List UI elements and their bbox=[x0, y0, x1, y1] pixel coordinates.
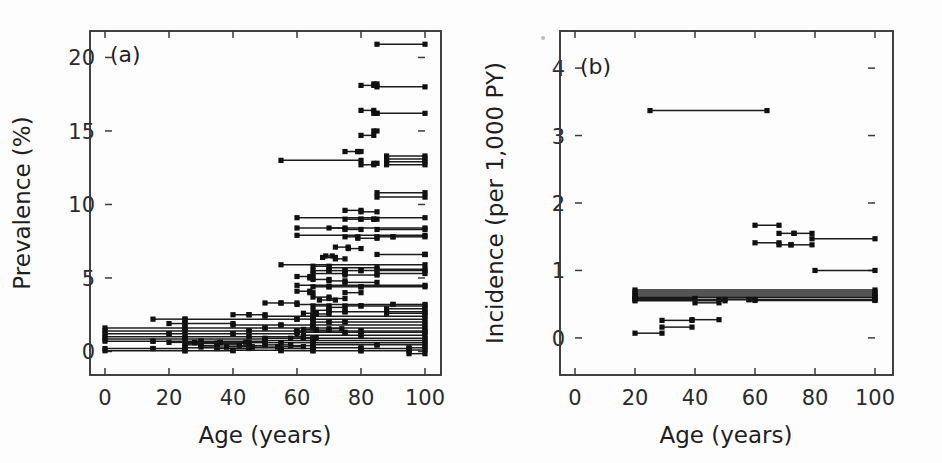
data-marker bbox=[776, 231, 781, 236]
y-tick-label: 20 bbox=[68, 46, 95, 70]
x-tick-label: 60 bbox=[284, 386, 311, 410]
data-marker bbox=[230, 331, 235, 336]
data-marker bbox=[294, 283, 299, 288]
data-marker bbox=[809, 231, 814, 236]
x-tick-label: 60 bbox=[742, 386, 769, 410]
data-marker bbox=[422, 227, 427, 232]
data-marker bbox=[776, 223, 781, 228]
data-marker bbox=[358, 284, 363, 289]
panel-b: 02040608010001234 (b) Age (years) Incide… bbox=[482, 31, 895, 448]
data-marker bbox=[288, 343, 293, 348]
panel-a-plot-frame bbox=[90, 31, 441, 375]
x-tick-label: 0 bbox=[98, 386, 111, 410]
data-marker bbox=[689, 325, 694, 330]
data-marker bbox=[342, 256, 347, 261]
data-marker bbox=[358, 303, 363, 308]
data-marker bbox=[294, 289, 299, 294]
data-marker bbox=[659, 325, 664, 330]
data-marker bbox=[314, 311, 319, 316]
data-marker bbox=[422, 84, 427, 89]
data-marker bbox=[333, 245, 338, 250]
data-marker bbox=[384, 162, 389, 167]
y-tick-label: 5 bbox=[82, 267, 95, 291]
data-marker bbox=[198, 344, 203, 349]
data-marker bbox=[659, 331, 664, 336]
data-marker bbox=[809, 236, 814, 241]
data-marker bbox=[342, 303, 347, 308]
data-marker bbox=[294, 302, 299, 307]
data-marker bbox=[192, 340, 197, 345]
data-marker bbox=[301, 311, 306, 316]
data-marker bbox=[422, 215, 427, 220]
data-marker bbox=[374, 227, 379, 232]
data-marker bbox=[764, 108, 769, 113]
panel-b-data-series bbox=[632, 108, 877, 336]
x-tick-label: 40 bbox=[220, 386, 247, 410]
data-marker bbox=[294, 274, 299, 279]
data-marker bbox=[310, 294, 315, 299]
y-tick-label: 1 bbox=[552, 259, 565, 283]
data-marker bbox=[358, 217, 363, 222]
y-tick-label: 2 bbox=[552, 192, 565, 216]
data-marker bbox=[342, 234, 347, 239]
data-marker bbox=[358, 209, 363, 214]
data-marker bbox=[250, 344, 255, 349]
data-marker bbox=[788, 242, 793, 247]
x-tick-label: 100 bbox=[405, 386, 445, 410]
data-marker bbox=[294, 317, 299, 322]
data-marker bbox=[358, 133, 363, 138]
data-marker bbox=[326, 278, 331, 283]
scan-speck bbox=[541, 36, 545, 40]
data-marker bbox=[716, 317, 721, 322]
data-marker bbox=[278, 262, 283, 267]
data-marker bbox=[374, 111, 379, 116]
data-marker bbox=[422, 162, 427, 167]
data-marker bbox=[342, 272, 347, 277]
panel-b-tag: (b) bbox=[580, 54, 611, 79]
data-marker bbox=[317, 297, 322, 302]
data-marker bbox=[246, 328, 251, 333]
y-tick-label: 0 bbox=[82, 340, 95, 364]
data-marker bbox=[422, 111, 427, 116]
data-marker bbox=[326, 225, 331, 230]
data-marker bbox=[374, 128, 379, 133]
data-marker bbox=[314, 328, 319, 333]
data-marker bbox=[326, 326, 331, 331]
data-marker bbox=[230, 312, 235, 317]
data-marker bbox=[632, 331, 637, 336]
data-marker bbox=[374, 209, 379, 214]
data-marker bbox=[422, 234, 427, 239]
data-marker bbox=[326, 311, 331, 316]
panel-b-ticks bbox=[575, 31, 875, 375]
data-marker bbox=[374, 161, 379, 166]
data-marker bbox=[374, 195, 379, 200]
data-marker bbox=[294, 233, 299, 238]
x-tick-label: 100 bbox=[855, 386, 895, 410]
data-marker bbox=[262, 300, 267, 305]
data-marker bbox=[342, 290, 347, 295]
data-marker bbox=[294, 330, 299, 335]
data-marker bbox=[102, 348, 107, 353]
data-marker bbox=[182, 328, 187, 333]
data-marker bbox=[342, 280, 347, 285]
data-marker bbox=[224, 344, 229, 349]
data-marker bbox=[791, 231, 796, 236]
panel-b-xaxis-label: Age (years) bbox=[659, 422, 792, 448]
data-marker bbox=[278, 300, 283, 305]
data-marker bbox=[326, 319, 331, 324]
data-marker bbox=[150, 339, 155, 344]
data-marker bbox=[230, 348, 235, 353]
data-marker bbox=[330, 253, 335, 258]
data-marker bbox=[689, 317, 694, 322]
panel-a-data-series bbox=[102, 42, 427, 357]
data-marker bbox=[374, 234, 379, 239]
figure-svg: 02040608010005101520 (a) Age (years) Pre… bbox=[0, 0, 942, 463]
data-marker bbox=[374, 217, 379, 222]
data-marker bbox=[218, 340, 223, 345]
data-marker bbox=[342, 208, 347, 213]
data-marker bbox=[246, 312, 251, 317]
x-tick-label: 20 bbox=[622, 386, 649, 410]
data-marker bbox=[374, 342, 379, 347]
data-marker bbox=[374, 280, 379, 285]
data-marker bbox=[422, 306, 427, 311]
